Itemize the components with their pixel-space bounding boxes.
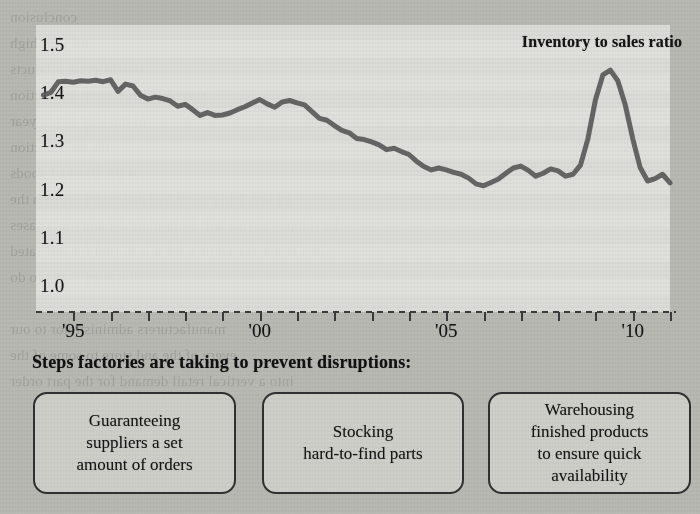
x-axis-tick-2004 [409, 312, 411, 321]
x-axis-tick-1997 [148, 312, 150, 321]
x-axis-tick-2007 [521, 312, 523, 321]
step-box-2: Stocking hard-to-find parts [262, 392, 464, 494]
x-axis-tick-2008 [558, 312, 560, 321]
y-axis-label-1-1: 1.1 [40, 227, 65, 249]
x-axis-tick-1998 [185, 312, 187, 321]
y-axis-label-1-0: 1.0 [40, 275, 65, 297]
x-axis-tick-label-10: '10 [621, 320, 643, 342]
x-axis-tick-2006 [484, 312, 486, 321]
x-axis-tick-2002 [334, 312, 336, 321]
chart-panel [36, 25, 670, 312]
x-axis-dashed-line [36, 311, 676, 313]
chart-title: Inventory to sales ratio [522, 33, 682, 51]
x-axis-tick-2001 [297, 312, 299, 321]
x-axis-tick-label-00: '00 [249, 320, 271, 342]
y-axis-label-1-2: 1.2 [40, 179, 65, 201]
x-axis-tick-label-95: '95 [62, 320, 84, 342]
step-box-3: Warehousing finished products to ensure … [488, 392, 691, 494]
y-axis-label-1-3: 1.3 [40, 130, 65, 152]
y-axis-label-1-5: 1.5 [40, 34, 65, 56]
x-axis-tick-2003 [372, 312, 374, 321]
x-axis-tick-2011 [670, 312, 672, 321]
step-box-1: Guaranteeing suppliers a set amount of o… [33, 392, 236, 494]
newspaper-chart-figure: conclusion and very high the different p… [0, 0, 700, 514]
x-axis-tick-label-05: '05 [435, 320, 457, 342]
step-box-2-label: Stocking hard-to-find parts [303, 421, 422, 465]
panel-scan-bands [36, 25, 670, 312]
x-axis-tick-2009 [595, 312, 597, 321]
x-axis-tick-1999 [222, 312, 224, 321]
step-box-1-label: Guaranteeing suppliers a set amount of o… [76, 410, 192, 476]
step-box-3-label: Warehousing finished products to ensure … [531, 399, 649, 487]
x-axis-tick-1996 [111, 312, 113, 321]
y-axis-label-1-4: 1.4 [40, 82, 65, 104]
subtitle: Steps factories are taking to prevent di… [32, 352, 411, 373]
